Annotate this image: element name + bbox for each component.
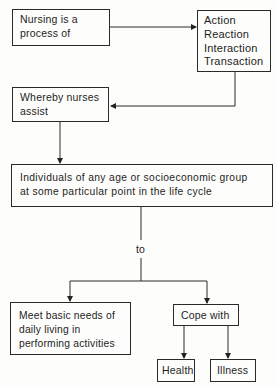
node-individuals: Individuals of any age or socioeconomic … [11,164,273,207]
node-assist: Whereby nurses assist [12,87,109,122]
node-text: Interaction [204,42,270,56]
node-text: Action [204,14,270,28]
node-illness: Illness [210,359,256,382]
node-text: at some particular point in the life cyc… [20,185,272,199]
node-text: process of [20,27,109,41]
node-text: assist [20,105,108,119]
node-health: Health [157,359,195,382]
node-text: Illness [217,364,255,378]
node-text: Reaction [204,28,270,42]
node-text: Nursing is a [20,13,109,27]
node-actions: Action Reaction Interaction Transaction [197,10,271,72]
node-cope: Cope with [173,304,239,326]
nursing-process-diagram: Nursing is a process of Action Reaction … [0,0,277,387]
node-text: performing activities [19,337,130,351]
node-text: Transaction [204,55,270,69]
node-text: Health [162,364,194,378]
node-text: Whereby nurses [20,91,108,105]
node-text: Meet basic needs of [19,309,130,323]
node-text: Individuals of any age or socioeconomic … [20,171,272,185]
node-nursing: Nursing is a process of [12,9,110,46]
node-needs: Meet basic needs of daily living in perf… [10,302,131,355]
node-text: daily living in [19,323,130,337]
connector-label-to: to [136,243,145,255]
node-text: Cope with [181,309,238,323]
